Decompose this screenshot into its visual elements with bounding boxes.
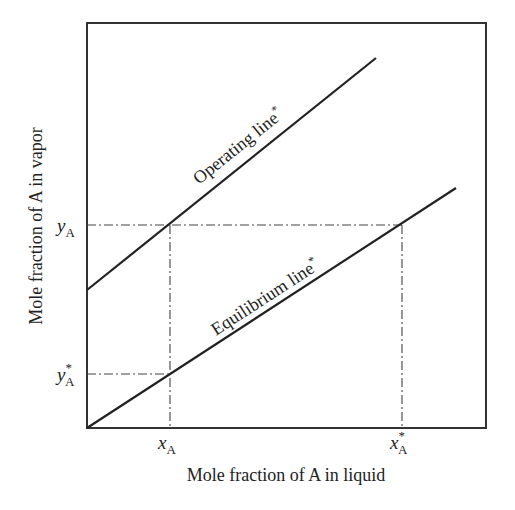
operating-line-label: Operating line* xyxy=(188,103,287,189)
xtick-xA-star: x*A xyxy=(389,428,408,457)
equilibrium-line xyxy=(87,188,456,428)
xtick-xA: xA xyxy=(157,432,176,457)
y-axis-title: Mole fraction of A in vapor xyxy=(26,127,46,324)
ytick-yA-star: y*A xyxy=(55,360,75,389)
x-axis-title: Mole fraction of A in liquid xyxy=(187,465,385,485)
diagram-canvas: Operating line* Equilibrium line* yA y*A… xyxy=(0,0,515,510)
ytick-yA: yA xyxy=(55,215,75,240)
operating-line xyxy=(87,58,376,290)
equilibrium-line-label: Equilibrium line* xyxy=(206,253,322,339)
